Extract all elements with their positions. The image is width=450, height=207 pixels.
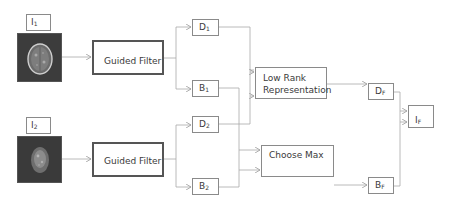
base-fusion-arrow (0, 0, 450, 207)
